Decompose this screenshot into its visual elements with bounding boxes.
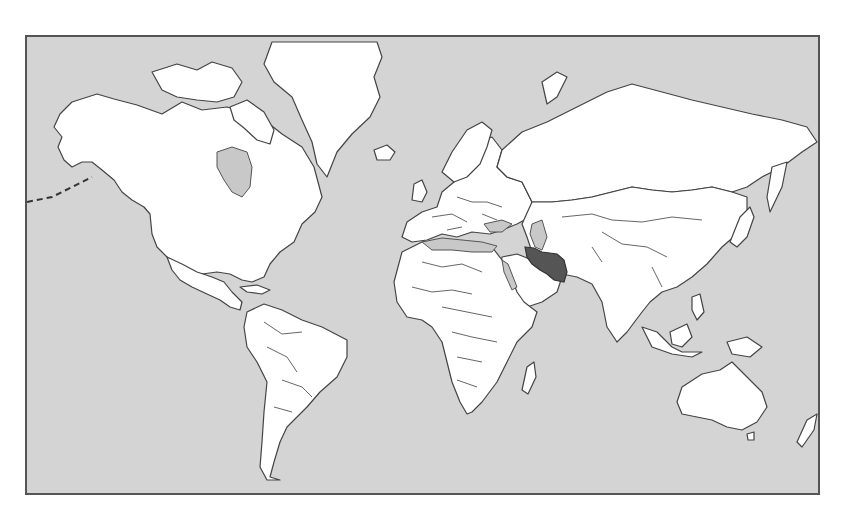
new-guinea xyxy=(727,337,762,357)
arctic-archipelago xyxy=(152,62,242,102)
borneo xyxy=(670,324,692,347)
iceland xyxy=(374,145,395,160)
novaya-zemlya xyxy=(542,72,567,104)
cuba xyxy=(240,285,270,294)
world-map xyxy=(25,35,820,495)
south-america xyxy=(244,304,347,480)
north-america xyxy=(54,94,322,282)
tasmania xyxy=(747,432,754,440)
philippines xyxy=(692,294,704,320)
madagascar xyxy=(522,362,536,394)
united-kingdom xyxy=(412,180,427,202)
bering-dateline xyxy=(27,177,92,202)
new-zealand xyxy=(797,414,817,447)
mediterranean-sea xyxy=(422,238,497,252)
australia xyxy=(677,362,767,430)
map-svg xyxy=(27,37,820,495)
